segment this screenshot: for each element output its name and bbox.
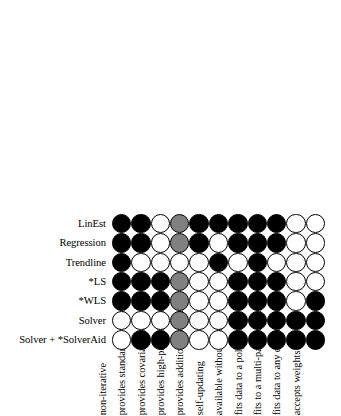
matrix-cell-filled bbox=[131, 233, 150, 252]
matrix-cell-filled bbox=[248, 272, 267, 291]
matrix-cell-empty bbox=[131, 253, 150, 272]
matrix-cell-empty bbox=[209, 291, 228, 310]
matrix-cell-filled bbox=[267, 272, 286, 291]
matrix-cell-empty bbox=[286, 291, 305, 310]
matrix-cell-filled bbox=[306, 291, 325, 310]
matrix-cell-filled bbox=[112, 233, 131, 252]
matrix-cell-partial bbox=[170, 214, 189, 233]
matrix-cell-filled bbox=[267, 214, 286, 233]
matrix-cell-filled bbox=[151, 272, 170, 291]
matrix-cell-empty bbox=[286, 253, 305, 272]
column-header-label: self-updating bbox=[189, 361, 208, 416]
matrix-cell-filled bbox=[189, 214, 208, 233]
matrix-cell-filled bbox=[248, 214, 267, 233]
matrix-cell-empty bbox=[209, 311, 228, 330]
matrix-cell-filled bbox=[209, 253, 228, 272]
row-label: Solver + *SolverAid bbox=[0, 330, 109, 349]
matrix-cell-empty bbox=[267, 253, 286, 272]
matrix-cell-empty bbox=[228, 253, 247, 272]
column-header-label: accepts weights bbox=[286, 350, 305, 416]
row-label: LinEst bbox=[0, 214, 109, 233]
matrix-cell-filled bbox=[286, 330, 305, 349]
matrix-row bbox=[112, 291, 325, 310]
matrix-cell-empty bbox=[209, 330, 228, 349]
matrix-cell-filled bbox=[228, 311, 247, 330]
matrix-cell-filled bbox=[228, 214, 247, 233]
circle-grid bbox=[112, 214, 325, 355]
matrix-cell-partial bbox=[170, 272, 189, 291]
matrix-cell-empty bbox=[286, 233, 305, 252]
matrix-row bbox=[112, 311, 325, 330]
matrix-cell-filled bbox=[248, 330, 267, 349]
matrix-cell-empty bbox=[189, 311, 208, 330]
matrix-cell-filled bbox=[112, 253, 131, 272]
matrix-row bbox=[112, 214, 325, 233]
matrix-cell-filled bbox=[228, 291, 247, 310]
matrix-cell-empty bbox=[112, 330, 131, 349]
row-label-band: LinEstRegressionTrendline*LS*WLSSolverSo… bbox=[0, 214, 109, 355]
matrix-cell-filled bbox=[131, 272, 150, 291]
matrix-cell-partial bbox=[170, 311, 189, 330]
matrix-cell-filled bbox=[267, 330, 286, 349]
matrix-cell-filled bbox=[228, 233, 247, 252]
row-label: *WLS bbox=[0, 291, 109, 310]
matrix-row bbox=[112, 233, 325, 252]
matrix-row bbox=[112, 272, 325, 291]
matrix-cell-filled bbox=[267, 233, 286, 252]
matrix-row bbox=[112, 330, 325, 349]
matrix-cell-empty bbox=[189, 291, 208, 310]
matrix-cell-filled bbox=[209, 214, 228, 233]
row-label: Trendline bbox=[0, 253, 109, 272]
matrix-cell-filled bbox=[306, 311, 325, 330]
matrix-cell-filled bbox=[151, 330, 170, 349]
matrix-cell-empty bbox=[131, 311, 150, 330]
matrix-cell-empty bbox=[286, 272, 305, 291]
matrix-cell-filled bbox=[112, 214, 131, 233]
matrix-cell-filled bbox=[131, 214, 150, 233]
column-header-band: non-iterativeprovides standard deviation… bbox=[112, 12, 325, 214]
matrix-cell-filled bbox=[248, 253, 267, 272]
matrix-cell-empty bbox=[151, 233, 170, 252]
row-label: *LS bbox=[0, 272, 109, 291]
matrix-cell-filled bbox=[151, 291, 170, 310]
matrix-cell-empty bbox=[306, 253, 325, 272]
matrix-cell-empty bbox=[189, 272, 208, 291]
matrix-cell-partial bbox=[170, 330, 189, 349]
matrix-row bbox=[112, 253, 325, 272]
matrix-cell-filled bbox=[286, 311, 305, 330]
row-label: Regression bbox=[0, 233, 109, 252]
matrix-cell-filled bbox=[248, 233, 267, 252]
matrix-cell-empty bbox=[189, 253, 208, 272]
row-label: Solver bbox=[0, 311, 109, 330]
matrix-cell-empty bbox=[151, 253, 170, 272]
matrix-cell-partial bbox=[170, 291, 189, 310]
matrix-cell-empty bbox=[306, 233, 325, 252]
matrix-cell-filled bbox=[189, 233, 208, 252]
matrix-cell-filled bbox=[306, 330, 325, 349]
matrix-cell-filled bbox=[131, 291, 150, 310]
matrix-cell-filled bbox=[112, 291, 131, 310]
matrix-cell-filled bbox=[131, 330, 150, 349]
matrix-cell-empty bbox=[151, 214, 170, 233]
matrix-cell-empty bbox=[170, 253, 189, 272]
matrix-cell-empty bbox=[112, 311, 131, 330]
matrix-cell-filled bbox=[248, 291, 267, 310]
matrix-cell-empty bbox=[209, 233, 228, 252]
matrix-cell-empty bbox=[189, 330, 208, 349]
matrix-cell-filled bbox=[228, 272, 247, 291]
column-header-label: non-iterative bbox=[93, 363, 112, 416]
matrix-cell-empty bbox=[286, 214, 305, 233]
matrix-cell-filled bbox=[228, 330, 247, 349]
matrix-cell-filled bbox=[248, 311, 267, 330]
matrix-cell-empty bbox=[151, 311, 170, 330]
matrix-cell-filled bbox=[112, 272, 131, 291]
matrix-cell-empty bbox=[209, 272, 228, 291]
matrix-cell-empty bbox=[306, 214, 325, 233]
matrix-cell-empty bbox=[306, 272, 325, 291]
matrix-cell-partial bbox=[170, 233, 189, 252]
matrix-cell-filled bbox=[267, 311, 286, 330]
matrix-cell-filled bbox=[267, 291, 286, 310]
